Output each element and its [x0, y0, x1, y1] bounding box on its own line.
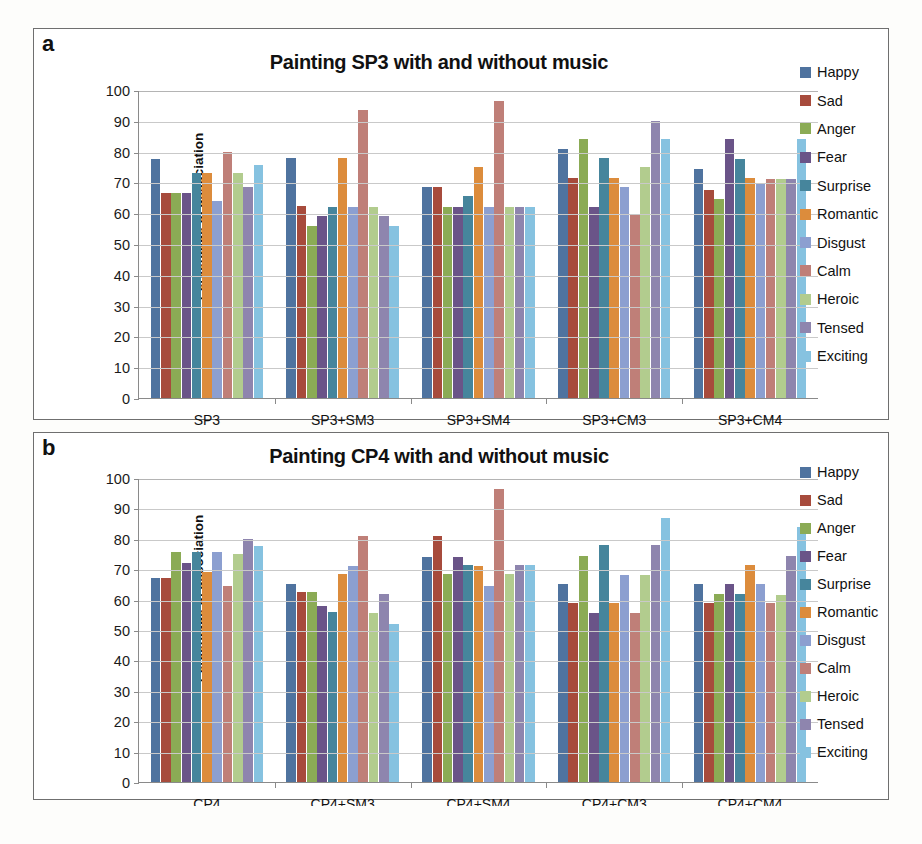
bar-calm-sp3	[223, 152, 233, 398]
panel-b-title: Painting CP4 with and without music	[154, 445, 724, 468]
legend-swatch-icon	[800, 123, 811, 134]
legend-label: Heroic	[817, 291, 859, 307]
y-tick-label: 10	[114, 745, 130, 761]
y-tick-label: 100	[106, 83, 130, 99]
x-axis-separator	[411, 398, 412, 404]
legend-label: Fear	[817, 548, 847, 564]
legend-swatch-icon	[800, 67, 811, 78]
panel-b-legend: HappySadAngerFearSurpriseRomanticDisgust…	[800, 458, 878, 766]
x-axis-separator	[275, 782, 276, 788]
bar-heroic-cp4+cm4	[776, 595, 786, 782]
bar-sad-sp3+cm4	[704, 190, 714, 398]
bar-calm-sp3+cm4	[766, 179, 776, 398]
gridline	[139, 337, 818, 338]
y-tick-label: 80	[114, 145, 130, 161]
y-tick-label: 90	[114, 114, 130, 130]
bar-happy-sp3+cm3	[558, 149, 568, 398]
gridline	[139, 753, 818, 754]
legend-swatch-icon	[800, 635, 811, 646]
bar-exciting-cp4+cm3	[661, 518, 671, 782]
bar-disgust-sp3+cm3	[620, 187, 630, 398]
bar-happy-sp3+cm4	[694, 169, 704, 398]
legend-item-exciting: Exciting	[800, 738, 878, 766]
bar-anger-sp3+sm3	[307, 226, 317, 398]
bar-exciting-cp4+sm3	[389, 624, 399, 782]
x-axis-separator	[682, 782, 683, 788]
panel-b: b Painting CP4 with and without music Pe…	[33, 432, 889, 800]
x-axis-separator	[546, 782, 547, 788]
gridline	[139, 91, 818, 92]
y-tick-mark	[134, 570, 139, 571]
legend-label: Calm	[817, 263, 851, 279]
legend-item-anger: Anger	[800, 115, 878, 143]
y-tick-label: 0	[122, 391, 130, 407]
gridline	[139, 276, 818, 277]
bar-happy-sp3	[151, 159, 161, 398]
legend-swatch-icon	[800, 294, 811, 305]
bar-anger-cp4+cm3	[579, 556, 589, 782]
bar-anger-cp4+sm4	[443, 574, 453, 782]
gridline	[139, 479, 818, 480]
gridline	[139, 183, 818, 184]
y-tick-mark	[134, 245, 139, 246]
y-tick-mark	[134, 661, 139, 662]
y-tick-mark	[134, 307, 139, 308]
bar-anger-sp3+sm4	[443, 207, 453, 398]
legend-item-heroic: Heroic	[800, 682, 878, 710]
legend-label: Happy	[817, 64, 859, 80]
gridline	[139, 245, 818, 246]
panel-a-x-axis-labels: SP3SP3+SM3SP3+SM4SP3+CM3SP3+CM4	[139, 412, 818, 428]
gridline	[139, 631, 818, 632]
panel-a-legend: HappySadAngerFearSurpriseRomanticDisgust…	[800, 58, 878, 370]
y-tick-label: 50	[114, 623, 130, 639]
legend-item-happy: Happy	[800, 58, 878, 86]
gridline	[139, 692, 818, 693]
bar-heroic-sp3	[233, 173, 243, 398]
y-tick-label: 70	[114, 175, 130, 191]
x-axis-label: SP3+CM4	[682, 412, 818, 428]
bar-surprise-cp4+sm4	[463, 565, 473, 782]
panel-a: a Painting SP3 with and without music Pe…	[33, 28, 889, 420]
bar-calm-sp3+sm4	[494, 101, 504, 398]
bar-exciting-sp3+sm4	[525, 207, 535, 398]
bar-romantic-cp4+sm3	[338, 574, 348, 782]
bar-romantic-sp3+sm4	[474, 167, 484, 398]
legend-label: Tensed	[817, 716, 864, 732]
bar-disgust-sp3+sm3	[348, 207, 358, 398]
legend-swatch-icon	[800, 351, 811, 362]
legend-swatch-icon	[800, 523, 811, 534]
legend-item-fear: Fear	[800, 143, 878, 171]
bar-heroic-cp4+sm4	[505, 574, 515, 782]
y-tick-label: 60	[114, 593, 130, 609]
legend-item-tensed: Tensed	[800, 314, 878, 342]
gridline	[139, 368, 818, 369]
legend-label: Heroic	[817, 688, 859, 704]
legend-swatch-icon	[800, 467, 811, 478]
x-axis-separator	[411, 782, 412, 788]
bar-fear-cp4+sm3	[317, 606, 327, 782]
bar-surprise-sp3	[192, 173, 202, 398]
bar-tensed-sp3	[243, 187, 253, 398]
bar-romantic-sp3+cm4	[745, 178, 755, 398]
bar-fear-cp4+cm3	[589, 613, 599, 782]
legend-item-calm: Calm	[800, 654, 878, 682]
legend-label: Anger	[817, 520, 856, 536]
figure-container: a Painting SP3 with and without music Pe…	[0, 0, 922, 844]
bar-tensed-cp4+cm3	[651, 545, 661, 782]
y-tick-mark	[134, 479, 139, 480]
y-tick-mark	[134, 153, 139, 154]
bar-disgust-cp4+sm3	[348, 566, 358, 782]
x-axis-label: SP3+SM3	[275, 412, 411, 428]
y-tick-label: 40	[114, 268, 130, 284]
y-tick-label: 0	[122, 775, 130, 791]
y-tick-mark	[134, 631, 139, 632]
gridline	[139, 307, 818, 308]
gridline	[139, 601, 818, 602]
legend-swatch-icon	[800, 237, 811, 248]
gridline	[139, 540, 818, 541]
panel-a-title: Painting SP3 with and without music	[154, 51, 724, 74]
bar-tensed-cp4+cm4	[786, 556, 796, 782]
y-tick-mark	[134, 692, 139, 693]
legend-label: Surprise	[817, 576, 871, 592]
legend-item-happy: Happy	[800, 458, 878, 486]
